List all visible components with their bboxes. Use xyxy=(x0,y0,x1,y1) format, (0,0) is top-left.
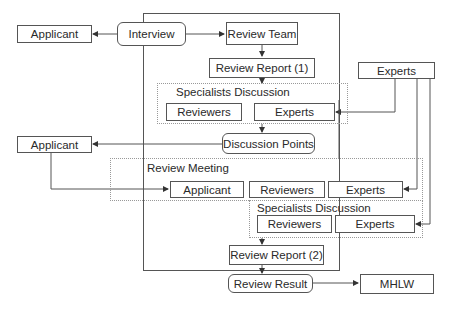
review-report-1-node: Review Report (1) xyxy=(209,58,315,78)
reviewers-node: Reviewers xyxy=(257,215,332,233)
reviewers-node: Reviewers xyxy=(249,181,325,198)
group-label: Specialists Discussion xyxy=(257,202,371,214)
group-label: Review Meeting xyxy=(147,162,229,174)
mhlw-node: MHLW xyxy=(360,274,434,294)
review-result-node: Review Result xyxy=(228,274,313,293)
interview-node: Interview xyxy=(117,22,186,46)
applicant-node: Applicant xyxy=(170,181,244,198)
applicant-node-top: Applicant xyxy=(17,25,92,43)
reviewers-node: Reviewers xyxy=(166,103,242,121)
experts-node: Experts xyxy=(254,103,335,121)
group-label: Specialists Discussion xyxy=(176,86,290,98)
review-team-node: Review Team xyxy=(226,22,298,45)
discussion-points-node: Discussion Points xyxy=(222,133,315,154)
experts-node-right: Experts xyxy=(358,62,435,79)
experts-node: Experts xyxy=(335,215,415,233)
experts-node: Experts xyxy=(328,181,403,198)
applicant-node-left: Applicant xyxy=(17,136,92,153)
review-report-2-node: Review Report (2) xyxy=(229,245,324,265)
connector-lines xyxy=(0,0,449,313)
